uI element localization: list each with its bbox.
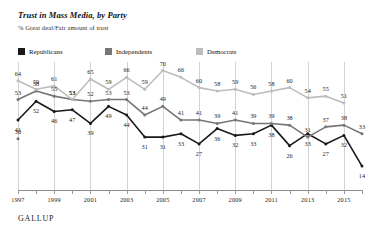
data-point[interactable] <box>252 132 255 135</box>
data-label: 41 <box>171 109 191 116</box>
data-point[interactable] <box>324 125 327 128</box>
data-label: 38 <box>334 114 354 121</box>
x-axis-label: 2005 <box>147 196 179 203</box>
data-point[interactable] <box>17 119 20 122</box>
data-label: 39 <box>243 112 263 119</box>
x-tick <box>344 190 345 194</box>
data-point[interactable] <box>179 132 182 135</box>
x-tick <box>290 190 291 194</box>
data-point[interactable] <box>161 105 164 108</box>
data-label: 58 <box>207 80 227 87</box>
data-point[interactable] <box>179 119 182 122</box>
data-point[interactable] <box>234 119 237 122</box>
data-point[interactable] <box>107 98 110 101</box>
legend-item-democrats[interactable]: Democrats <box>196 40 236 50</box>
data-point[interactable] <box>288 124 291 127</box>
data-point[interactable] <box>234 134 237 137</box>
data-label: 30 <box>8 128 28 135</box>
data-point[interactable] <box>324 95 327 98</box>
data-point[interactable] <box>71 98 74 101</box>
data-label: 60 <box>280 77 300 84</box>
data-point[interactable] <box>35 100 38 103</box>
data-point[interactable] <box>179 76 182 79</box>
data-point[interactable] <box>53 110 56 113</box>
x-axis-label: 2003 <box>111 196 143 203</box>
x-tick <box>109 190 110 194</box>
data-label: 54 <box>298 87 318 94</box>
data-point[interactable] <box>288 86 291 89</box>
data-point[interactable] <box>161 136 164 139</box>
data-point[interactable] <box>270 90 273 93</box>
data-label: 33 <box>243 140 263 147</box>
data-point[interactable] <box>143 88 146 91</box>
data-point[interactable] <box>89 122 92 125</box>
data-label: 70 <box>153 60 173 67</box>
data-point[interactable] <box>306 136 309 139</box>
data-label: 27 <box>316 150 336 157</box>
x-axis-line <box>18 190 362 191</box>
legend-swatch-democrats <box>196 48 203 55</box>
data-label: 55 <box>316 85 336 92</box>
data-label: 59 <box>135 78 155 85</box>
x-tick <box>308 190 309 194</box>
data-point[interactable] <box>342 124 345 127</box>
data-point[interactable] <box>89 78 92 81</box>
data-label: 58 <box>261 80 281 87</box>
data-point[interactable] <box>125 113 128 116</box>
data-label: 53 <box>117 89 137 96</box>
data-point[interactable] <box>306 96 309 99</box>
data-label: 49 <box>99 112 119 119</box>
data-point[interactable] <box>324 142 327 145</box>
data-point[interactable] <box>143 136 146 139</box>
legend-item-republicans[interactable]: Republicans <box>18 40 63 50</box>
data-label: 33 <box>298 140 318 147</box>
data-point[interactable] <box>198 142 201 145</box>
data-point[interactable] <box>234 88 237 91</box>
data-point[interactable] <box>361 165 364 168</box>
data-point[interactable] <box>71 108 74 111</box>
data-point[interactable] <box>35 88 38 91</box>
x-tick <box>145 190 146 194</box>
data-point[interactable] <box>89 100 92 103</box>
data-label: 64 <box>8 70 28 77</box>
data-point[interactable] <box>216 90 219 93</box>
data-point[interactable] <box>342 134 345 137</box>
data-point[interactable] <box>17 137 20 140</box>
data-point[interactable] <box>198 119 201 122</box>
data-point[interactable] <box>288 144 291 147</box>
data-point[interactable] <box>125 76 128 79</box>
data-point[interactable] <box>198 86 201 89</box>
data-label: 59 <box>26 78 46 85</box>
data-point[interactable] <box>252 122 255 125</box>
data-point[interactable] <box>125 98 128 101</box>
data-label: 55 <box>44 85 64 92</box>
data-point[interactable] <box>17 98 20 101</box>
data-point[interactable] <box>143 113 146 116</box>
legend-item-independents[interactable]: Independents <box>105 40 152 50</box>
data-point[interactable] <box>161 69 164 72</box>
data-label: 39 <box>261 112 281 119</box>
data-label: 44 <box>135 104 155 111</box>
data-label: 36 <box>207 135 227 142</box>
data-point[interactable] <box>107 105 110 108</box>
data-label: 49 <box>153 95 173 102</box>
data-label: 61 <box>44 75 64 82</box>
data-label: 33 <box>352 123 372 130</box>
data-point[interactable] <box>17 79 20 82</box>
data-label: 39 <box>207 112 227 119</box>
data-point[interactable] <box>342 101 345 104</box>
data-label: 41 <box>225 109 245 116</box>
data-point[interactable] <box>216 127 219 130</box>
data-label: 37 <box>316 116 336 123</box>
x-tick <box>199 190 200 194</box>
data-label: 27 <box>189 150 209 157</box>
x-axis-label: 2013 <box>292 196 324 203</box>
data-point[interactable] <box>53 95 56 98</box>
data-point[interactable] <box>270 122 273 125</box>
data-label: 32 <box>334 141 354 148</box>
data-point[interactable] <box>252 93 255 96</box>
data-point[interactable] <box>361 132 364 135</box>
data-point[interactable] <box>216 122 219 125</box>
x-axis-label: 2011 <box>255 196 287 203</box>
data-label: 53 <box>99 89 119 96</box>
